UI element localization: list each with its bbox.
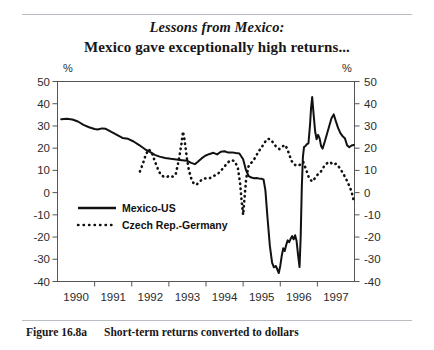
y-tick-label-right: -20 (364, 231, 381, 243)
x-tick-label: 1993 (175, 291, 201, 303)
y-tick-label-left: -40 (33, 276, 50, 288)
y-tick-label-left: -20 (33, 231, 50, 243)
y-axis-labels-right: 50403020100-10-20-30-40 (364, 76, 381, 288)
chart-title-line-1: Lessons from Mexico: (0, 18, 434, 37)
x-tick-label: 1990 (63, 291, 89, 303)
x-tick-label: 1992 (138, 291, 164, 303)
y-tick-label-left: 30 (37, 120, 50, 132)
top-divider-rule (22, 14, 412, 15)
y-tick-label-right: 30 (364, 120, 377, 132)
chart-title-line-2: Mexico gave exceptionally high returns..… (0, 37, 434, 57)
y-tick-label-right: 20 (364, 142, 377, 154)
chart-plot-area: 50403020100-10-20-30-40 50403020100-10-2… (0, 58, 434, 316)
y-axis-unit-left: % (63, 62, 73, 74)
y-tick-label-left: 0 (44, 187, 50, 199)
bottom-divider-rule (22, 320, 412, 321)
y-tick-label-left: -30 (33, 253, 50, 265)
chart-legend: Mexico-US Czech Rep.-Germany (78, 202, 228, 231)
data-series-group (61, 97, 354, 273)
x-axis-labels: 19901991199219931994199519961997 (63, 291, 348, 303)
y-axis-unit-right: % (342, 62, 352, 74)
figure-container: Lessons from Mexico: Mexico gave excepti… (0, 0, 434, 350)
series-line-mexico-us (61, 97, 354, 273)
y-axis-ticks-left (53, 82, 58, 282)
x-tick-label: 1994 (212, 291, 238, 303)
y-tick-label-right: -10 (364, 209, 381, 221)
y-tick-label-left: 10 (37, 164, 50, 176)
y-tick-label-right: 0 (364, 187, 370, 199)
y-tick-label-left: -10 (33, 209, 50, 221)
x-axis-ticks (95, 282, 318, 287)
x-tick-label: 1996 (286, 291, 312, 303)
y-axis-ticks-right (355, 82, 360, 282)
y-tick-label-right: -40 (364, 276, 381, 288)
y-tick-label-left: 40 (37, 98, 50, 110)
legend-label-mexico-us: Mexico-US (122, 202, 176, 214)
figure-caption-text: Short-term returns converted to dollars (104, 326, 299, 338)
y-tick-label-right: -30 (364, 253, 381, 265)
figure-caption: Figure 16.8a Short-term returns converte… (0, 326, 434, 346)
x-tick-label: 1997 (323, 291, 349, 303)
legend-label-czech-germany: Czech Rep.-Germany (122, 219, 228, 231)
y-axis-labels-left: 50403020100-10-20-30-40 (33, 76, 50, 288)
y-tick-label-right: 10 (364, 164, 377, 176)
y-tick-label-left: 20 (37, 142, 50, 154)
x-tick-label: 1995 (249, 291, 275, 303)
y-tick-label-left: 50 (37, 76, 50, 88)
line-chart-svg: 50403020100-10-20-30-40 50403020100-10-2… (0, 58, 434, 316)
y-tick-label-right: 40 (364, 98, 377, 110)
chart-title-block: Lessons from Mexico: Mexico gave excepti… (0, 18, 434, 57)
x-tick-label: 1991 (100, 291, 126, 303)
figure-caption-label: Figure 16.8a (26, 326, 87, 338)
y-tick-label-right: 50 (364, 76, 377, 88)
